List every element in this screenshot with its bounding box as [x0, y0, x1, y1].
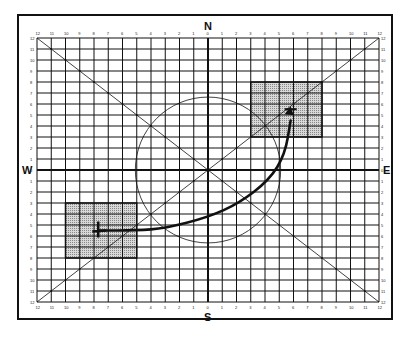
tick-label-bottom: 9 — [335, 305, 338, 310]
diagonal-tick — [364, 290, 366, 292]
tick-label-left: 7 — [30, 91, 33, 96]
tick-label-bottom: 4 — [264, 305, 267, 310]
tick-label-top: 7 — [306, 31, 309, 36]
tick-label-top: 5 — [278, 31, 281, 36]
diagonal-tick — [107, 246, 109, 248]
tick-label-right: 12 — [381, 36, 386, 41]
tick-label-top: 7 — [107, 31, 110, 36]
tick-label-bottom: 3 — [249, 305, 252, 310]
tick-label-right: 9 — [381, 267, 384, 272]
diagonal-tick — [50, 48, 52, 50]
tick-label-right: 8 — [381, 80, 384, 85]
diagonal-tick — [193, 158, 195, 160]
diagonal-tick — [193, 180, 195, 182]
tick-label-left: 1 — [30, 157, 33, 162]
tick-label-left: 4 — [30, 124, 33, 129]
tick-label-top: 8 — [321, 31, 324, 36]
diagonal-tick — [79, 70, 81, 72]
tick-label-right: 10 — [381, 58, 386, 63]
tick-label-bottom: 10 — [64, 305, 69, 310]
tick-label-left: 12 — [30, 36, 35, 41]
tick-label-top: 4 — [264, 31, 267, 36]
tick-label-right: 7 — [381, 245, 384, 250]
tick-label-right: 9 — [381, 69, 384, 74]
compass-east-label: E — [383, 164, 390, 176]
diagonal-tick — [236, 191, 238, 193]
tick-label-top: 1 — [221, 31, 224, 36]
diagonal-tick — [350, 279, 352, 281]
tick-label-left: 11 — [30, 47, 35, 52]
diagonal-tick — [93, 81, 95, 83]
tick-label-bottom: 3 — [164, 305, 167, 310]
diagonal-tick — [107, 92, 109, 94]
diagonal-tick — [307, 92, 309, 94]
tick-label-right: 7 — [381, 91, 384, 96]
diagonal-tick — [122, 235, 124, 237]
diagonal-tick — [278, 224, 280, 226]
compass-west-label: W — [22, 164, 33, 176]
tick-label-right: 1 — [381, 157, 384, 162]
tick-label-top: 2 — [178, 31, 181, 36]
tick-label-left: 2 — [30, 190, 33, 195]
diagonal-tick — [250, 136, 252, 138]
tick-label-left: 9 — [30, 69, 33, 74]
tick-label-left: 5 — [30, 113, 33, 118]
diagonal-tick — [250, 202, 252, 204]
diagonal-tick — [65, 279, 67, 281]
diagonal-tick — [136, 114, 138, 116]
tick-label-bottom: 8 — [93, 305, 96, 310]
tick-label-top: 6 — [292, 31, 295, 36]
tick-label-top: 9 — [335, 31, 338, 36]
tick-label-bottom: 4 — [150, 305, 153, 310]
tick-label-left: 11 — [30, 289, 35, 294]
tick-label-top: 12 — [36, 31, 41, 36]
tick-label-bottom: 5 — [278, 305, 281, 310]
tick-label-bottom: 12 — [378, 305, 383, 310]
tick-label-right: 5 — [381, 223, 384, 228]
diagonal-tick — [79, 268, 81, 270]
diagonal-tick — [293, 103, 295, 105]
tick-label-bottom: 1 — [221, 305, 224, 310]
diagonal-tick — [221, 158, 223, 160]
tick-label-left: 1 — [30, 179, 33, 184]
tick-label-left: 10 — [30, 58, 35, 63]
diagonal-tick — [50, 290, 52, 292]
compass-south-label: S — [204, 311, 211, 323]
diagonal-tick — [278, 114, 280, 116]
diagonal-tick — [221, 180, 223, 182]
tick-label-right: 1 — [381, 179, 384, 184]
diagonal-tick — [335, 70, 337, 72]
diagonal-tick — [164, 202, 166, 204]
tick-label-bottom: 9 — [78, 305, 81, 310]
tick-label-top: 3 — [164, 31, 167, 36]
tick-label-right: 2 — [381, 146, 384, 151]
tick-label-right: 4 — [381, 124, 384, 129]
tick-label-bottom: 10 — [349, 305, 354, 310]
diagonal-tick — [293, 235, 295, 237]
diagonal-tick — [335, 268, 337, 270]
tick-label-bottom: 7 — [306, 305, 309, 310]
tick-label-bottom: 11 — [363, 305, 368, 310]
tick-label-left: 6 — [30, 234, 33, 239]
tick-label-top: 6 — [121, 31, 124, 36]
tick-label-right: 11 — [381, 47, 386, 52]
tick-label-right: 6 — [381, 102, 384, 107]
tick-label-top: 11 — [363, 31, 368, 36]
tick-label-left: 5 — [30, 223, 33, 228]
tick-label-left: 4 — [30, 212, 33, 217]
tick-label-right: 4 — [381, 212, 384, 217]
tick-label-left: 8 — [30, 256, 33, 261]
tick-label-bottom: 5 — [135, 305, 138, 310]
diagonal-tick — [93, 257, 95, 259]
tick-label-left: 3 — [30, 135, 33, 140]
diagonal-tick — [364, 48, 366, 50]
compass-grid-diagram: 1211109876543210123456789101112121110987… — [0, 0, 411, 337]
tick-label-bottom: 6 — [292, 305, 295, 310]
tick-label-right: 12 — [381, 300, 386, 305]
tick-label-top: 3 — [249, 31, 252, 36]
compass-north-label: N — [204, 20, 212, 32]
tick-label-left: 7 — [30, 245, 33, 250]
tick-label-left: 2 — [30, 146, 33, 151]
tick-label-top: 5 — [135, 31, 138, 36]
tick-label-left: 9 — [30, 267, 33, 272]
